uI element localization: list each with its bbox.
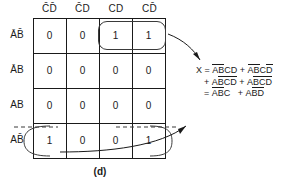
arrow-from-top-group-line	[168, 34, 200, 60]
cell-value: 0	[80, 135, 86, 146]
column-header-c1d0: CD̄	[133, 2, 166, 16]
cell-value: 0	[80, 30, 86, 41]
row-header-label: ĀB	[10, 64, 24, 75]
row-header-a0b0: ĀB̄	[4, 28, 30, 42]
cell-value: 0	[146, 65, 152, 76]
kmap-cell-r3c1[interactable]: 0	[66, 123, 99, 158]
cell-value: 0	[80, 100, 86, 111]
cell-value: 0	[80, 65, 86, 76]
cell-value: 1	[47, 135, 53, 146]
cell-value: 0	[113, 65, 119, 76]
equation-line-2: + ABCD + ABCD	[196, 76, 292, 88]
row-header-label: ĀB̄	[10, 29, 24, 40]
column-header-label: C̄D̄	[42, 3, 57, 14]
column-header-c0d1: C̄D	[66, 2, 99, 16]
kmap-cell-r3c3[interactable]: 1	[132, 123, 165, 158]
cell-value: 0	[47, 65, 53, 76]
karnaugh-map-figure: C̄D̄ C̄D CD CD̄ ĀB̄ ĀB AB AB̄ 0 0 1 1 …	[0, 0, 292, 186]
kmap-cell-r1c1[interactable]: 0	[66, 53, 99, 88]
column-header-label: C̄D	[75, 3, 90, 14]
kmap-cell-r1c0[interactable]: 0	[33, 53, 66, 88]
row-header-a0b1: ĀB	[4, 63, 30, 77]
arrow-from-top-group-head	[193, 52, 200, 60]
column-header-label: CD̄	[142, 3, 157, 14]
kmap-grid: 0 0 1 1 0 0 0 0 0 0 0 0 1 0 0 1	[33, 18, 166, 159]
column-header-c1d1: CD	[99, 2, 133, 16]
cell-value: 0	[47, 100, 53, 111]
kmap-cell-r2c3[interactable]: 0	[132, 88, 165, 123]
row-header-label: AB̄	[10, 134, 24, 145]
kmap-cell-r2c2[interactable]: 0	[99, 88, 132, 123]
row-header-label: AB	[10, 99, 24, 110]
row-header-a1b0: AB̄	[4, 133, 30, 147]
cell-value: 1	[146, 135, 152, 146]
kmap-cell-r0c1[interactable]: 0	[66, 18, 99, 53]
cell-value: 0	[113, 100, 119, 111]
grouping-top-row-pair	[98, 21, 166, 50]
cell-value: 0	[113, 135, 119, 146]
column-header-label: CD	[109, 3, 124, 14]
equation-line-3: = ABC + ABD	[196, 87, 292, 99]
kmap-cell-r0c0[interactable]: 0	[33, 18, 66, 53]
cell-value: 0	[47, 30, 53, 41]
kmap-cell-r2c1[interactable]: 0	[66, 88, 99, 123]
cell-value: 0	[146, 100, 152, 111]
derived-expression: X = ABCD + ABCD + ABCD + ABCD = ABC + AB…	[196, 64, 292, 99]
kmap-cell-r3c0[interactable]: 1	[33, 123, 66, 158]
arrow-from-bottom-group-head	[178, 126, 186, 134]
row-header-a1b1: AB	[4, 98, 30, 112]
equation-line-1: X = ABCD + ABCD	[196, 64, 292, 76]
kmap-cell-r3c2[interactable]: 0	[99, 123, 132, 158]
kmap-cell-r1c3[interactable]: 0	[132, 53, 165, 88]
kmap-cell-r1c2[interactable]: 0	[99, 53, 132, 88]
kmap-cell-r2c0[interactable]: 0	[33, 88, 66, 123]
column-header-c0d0: C̄D̄	[33, 2, 66, 16]
figure-caption: (d)	[0, 166, 200, 177]
